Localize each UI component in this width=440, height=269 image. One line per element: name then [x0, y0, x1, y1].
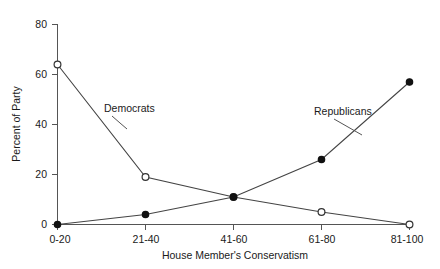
y-tick-label-20: 20 [35, 168, 47, 180]
annotation-leaders-group [112, 116, 362, 135]
x-tick-label-0-20: 0-20 [49, 233, 70, 245]
x-tick-label-81-100: 81-100 [391, 233, 424, 245]
x-tick-label-21-40: 21-40 [133, 233, 160, 245]
line-chart-canvas: 80 60 40 20 0 Percent of Party 0-20 21-4… [0, 0, 440, 269]
y-tick-labels-group: 80 60 40 20 0 [35, 18, 47, 230]
y-tick-label-80: 80 [35, 18, 47, 30]
democrats-leader-line [112, 116, 127, 129]
x-tick-label-61-80: 61-80 [309, 233, 336, 245]
chart-figure: 80 60 40 20 0 Percent of Party 0-20 21-4… [0, 0, 440, 269]
y-ticks-group [52, 25, 58, 225]
y-tick-label-40: 40 [35, 118, 47, 130]
series-layer [54, 61, 413, 228]
democrats-series-label: Democrats [104, 102, 155, 114]
data-point-democrats-81-100 [406, 221, 413, 228]
data-point-republicans-81-100 [406, 79, 412, 85]
y-axis-title: Percent of Party [10, 86, 22, 162]
republicans-series-label: Republicans [314, 105, 372, 117]
data-point-democrats-21-40 [142, 174, 149, 181]
x-tick-labels-group: 0-20 21-40 41-60 61-80 81-100 [49, 233, 423, 245]
data-point-republicans-61-80 [318, 156, 324, 162]
data-point-democrats-61-80 [318, 209, 325, 216]
data-point-republicans-0-20 [54, 221, 60, 227]
y-tick-label-0: 0 [41, 218, 47, 230]
y-tick-label-60: 60 [35, 68, 47, 80]
data-point-democrats-0-20 [54, 61, 61, 68]
data-point-republicans-21-40 [142, 211, 148, 217]
series-democrats [54, 61, 413, 228]
x-axis-title: House Member's Conservatism [162, 249, 308, 261]
x-ticks-group [58, 225, 410, 231]
data-point-republicans-41-60 [230, 194, 236, 200]
x-tick-label-41-60: 41-60 [221, 233, 248, 245]
